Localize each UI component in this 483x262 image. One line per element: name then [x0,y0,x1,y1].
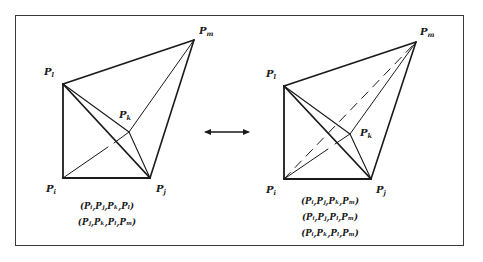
left-label-pl: Pl [44,67,54,79]
hidden-edge-pi-pm [284,42,416,179]
left-label-pk: Pk [119,110,131,122]
right-label-pj: Pj [376,185,386,197]
left-tetra-1: (Pᵢ,Pⱼ,Pₖ,Pₗ) [72,202,142,211]
right-label-pk: Pk [360,128,372,140]
right-label-pm: Pm [420,27,434,39]
left-tetrahedra-edges [63,40,194,178]
right-tetra-1: (Pᵢ,Pⱼ,Pₖ,Pₘ) [293,197,367,206]
right-label-pl: Pl [266,69,276,81]
double-arrow-icon [204,129,250,135]
diagram-canvas: Pl Pm Pk Pi Pj (Pᵢ,Pⱼ,Pₖ,Pₗ) (Pⱼ,Pₖ,Pₗ,P… [0,0,483,262]
left-label-pi: Pi [46,184,56,196]
right-tetra-3: (Pᵢ,Pₖ,Pₗ,Pₘ) [293,229,367,238]
right-tetrahedra-edges [284,42,416,179]
right-label-pi: Pi [266,185,276,197]
left-label-pj: Pj [156,184,166,196]
right-tetra-2: (Pᵢ,Pⱼ,Pₗ,Pₘ) [293,213,367,222]
left-tetra-2: (Pⱼ,Pₖ,Pₗ,Pₘ) [72,218,142,227]
left-label-pm: Pm [199,26,213,38]
